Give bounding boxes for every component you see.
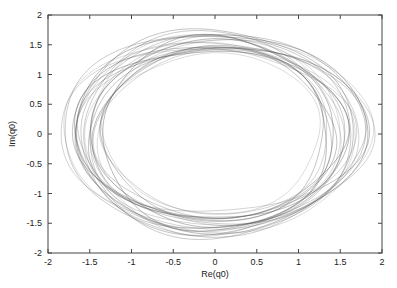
y-tick-label: -1.5 [26,218,42,228]
phase-plot: -2-1.5-1-0.500.511.52 -2-1.5-1-0.500.511… [0,0,397,288]
x-axis-label: Re(q0) [201,269,229,279]
y-tick-label: -1 [34,189,42,199]
x-tick-label: 2 [379,257,384,267]
x-tick-label: -0.5 [165,257,181,267]
x-tick-label: 1 [296,257,301,267]
trajectory-loop [65,35,366,237]
y-tick-label: -2 [34,248,42,258]
y-tick-label: 2 [37,10,42,20]
y-tick-label: 0 [37,129,42,139]
x-tick-label: -1.5 [82,257,98,267]
trajectory-loop [77,48,366,225]
y-tick-label: 1 [37,70,42,80]
x-tick-label: 0.5 [250,257,263,267]
trajectory-loop [76,37,368,235]
x-tick-label: -1 [127,257,135,267]
y-tick-label: -0.5 [26,159,42,169]
x-tick-label: -2 [44,257,52,267]
y-tick-label: 0.5 [29,99,42,109]
trajectory-loop [102,53,321,214]
y-axis-label: Im(q0) [7,121,17,147]
trajectory-loop [75,43,359,232]
trajectory-loop [76,49,357,212]
trajectory-curves [61,29,375,240]
x-tick-label: 1.5 [334,257,347,267]
trajectory-loop [100,45,323,221]
trajectory-loop [97,40,341,226]
y-tick-label: 1.5 [29,40,42,50]
x-tick-label: 0 [212,257,217,267]
